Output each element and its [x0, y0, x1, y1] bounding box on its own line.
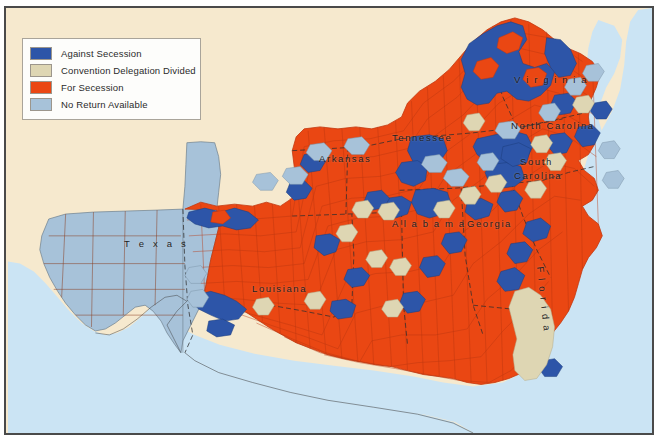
legend-item-against-secession: Against Secession	[30, 45, 193, 61]
legend-swatch-for-secession	[30, 81, 52, 94]
map-legend: Against Secession Convention Delegation …	[22, 38, 201, 120]
legend-label-no-return: No Return Available	[61, 99, 148, 110]
legend-swatch-no-return	[30, 98, 52, 111]
legend-swatch-delegation-divided	[30, 64, 52, 77]
legend-label-delegation-divided: Convention Delegation Divided	[61, 65, 196, 76]
legend-item-delegation-divided: Convention Delegation Divided	[30, 62, 193, 78]
map-frame: Against Secession Convention Delegation …	[4, 6, 654, 435]
legend-label-against-secession: Against Secession	[61, 48, 142, 59]
legend-swatch-against-secession	[30, 47, 52, 60]
secession-vote-map-figure: Against Secession Convention Delegation …	[0, 0, 659, 442]
legend-item-no-return: No Return Available	[30, 96, 193, 112]
legend-item-for-secession: For Secession	[30, 79, 193, 95]
legend-label-for-secession: For Secession	[61, 82, 124, 93]
